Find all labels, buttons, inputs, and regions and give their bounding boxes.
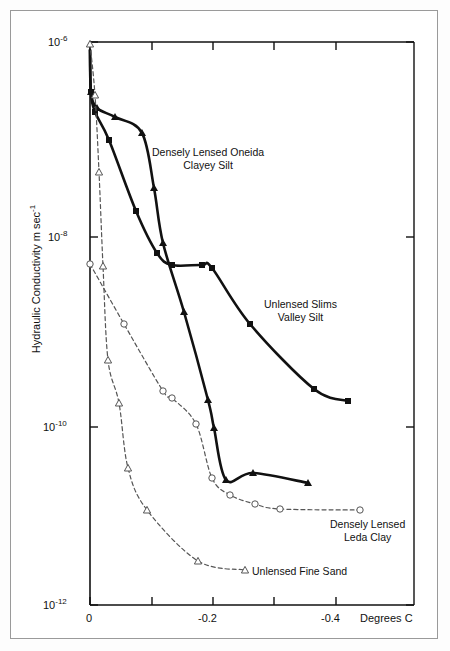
y-tick-label-1e-10: 10-10 bbox=[43, 419, 67, 433]
figure-container: 10-6 10-8 10-10 10-12 0 -0.2 -0.4 Degree… bbox=[0, 0, 450, 651]
series-label-leda: Densely LensedLeda Clay bbox=[330, 518, 405, 544]
series-3 bbox=[86, 40, 248, 573]
x-tick-label-minus-0-4: -0.4 bbox=[321, 612, 340, 624]
x-axis-title: Degrees C bbox=[360, 612, 413, 624]
y-axis-title-wrapper: Hydraulic Conductivity m sec-1 bbox=[26, 164, 44, 394]
series-label-fine-sand: Unlensed Fine Sand bbox=[252, 565, 347, 578]
x-tick-label-minus-0-2: -0.2 bbox=[198, 612, 217, 624]
series-1 bbox=[88, 50, 351, 404]
x-tick-label-0: 0 bbox=[86, 612, 92, 624]
series-label-oneida: Densely Lensed OneidaClayey Silt bbox=[152, 146, 264, 172]
y-axis-title: Hydraulic Conductivity m sec-1 bbox=[30, 205, 42, 353]
plot-canvas bbox=[0, 0, 450, 651]
y-tick-label-1e-12: 10-12 bbox=[43, 597, 67, 611]
series-label-slims: Unlensed SlimsValley Silt bbox=[264, 298, 337, 324]
y-tick-label-1e-8: 10-8 bbox=[48, 229, 67, 243]
y-tick-label-1e-6: 10-6 bbox=[48, 34, 67, 48]
